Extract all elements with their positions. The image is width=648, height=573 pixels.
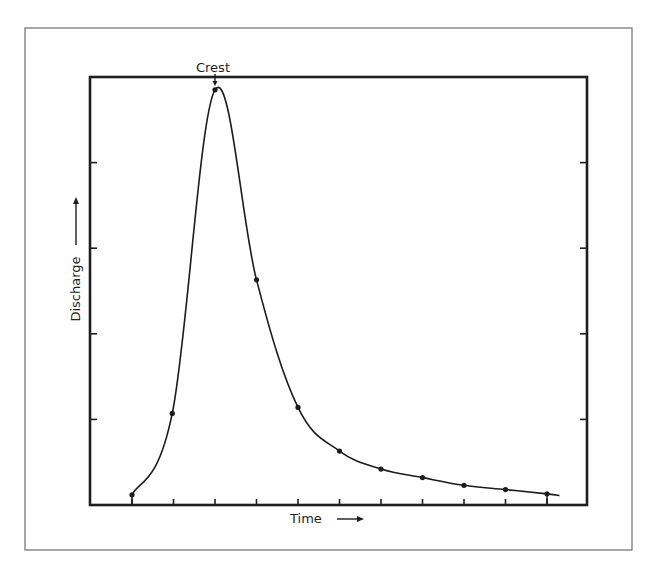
data-point	[212, 87, 217, 92]
hydrograph-figure: Crest Time Discharge	[0, 0, 648, 573]
data-point	[337, 448, 342, 453]
data-point	[170, 411, 175, 416]
y-axis-label: Discharge	[68, 256, 83, 321]
y-axis-arrow-icon	[73, 197, 79, 245]
hydrograph-curve	[132, 87, 559, 495]
x-axis-label: Time	[289, 511, 322, 526]
data-point	[295, 405, 300, 410]
data-point	[420, 475, 425, 480]
data-point	[378, 466, 383, 471]
data-point	[254, 277, 259, 282]
plot-area-frame	[90, 77, 587, 505]
data-points	[129, 87, 549, 505]
data-point	[503, 487, 508, 492]
figure-border	[25, 28, 632, 550]
crest-annotation: Crest	[196, 60, 230, 75]
x-axis-arrow-icon	[337, 516, 364, 522]
data-point	[461, 483, 466, 488]
